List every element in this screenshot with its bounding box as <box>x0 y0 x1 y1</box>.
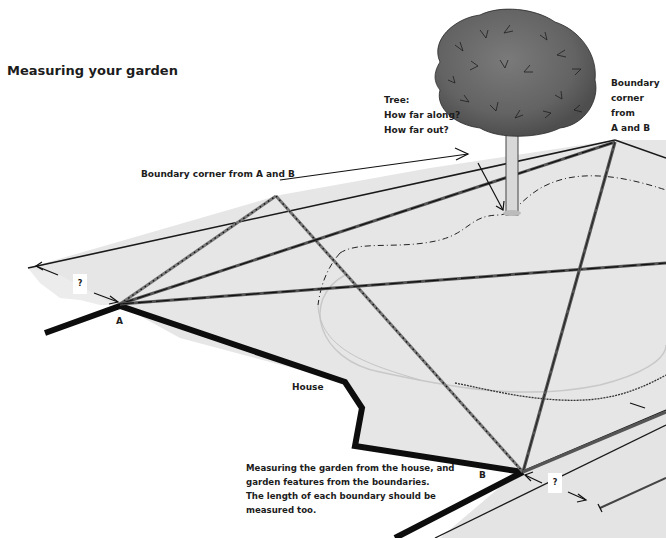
boundary-corner-right-label: Boundary corner from A and B <box>611 76 660 136</box>
diagram-illustration <box>0 0 666 538</box>
garden-measuring-diagram: Measuring your garden Tree: How far alon… <box>0 0 666 538</box>
point-b-label: B <box>479 470 486 480</box>
tree-label: Tree: How far along? How far out? <box>384 93 460 138</box>
page-title: Measuring your garden <box>7 63 178 78</box>
boundary-corner-left-label: Boundary corner from A and B <box>141 169 295 179</box>
unknown-distance-a: ? <box>73 274 87 294</box>
house-label: House <box>292 382 324 392</box>
diagram-caption: Measuring the garden from the house, and… <box>246 461 454 517</box>
point-a-label: A <box>116 316 123 326</box>
unknown-distance-b: ? <box>548 473 562 493</box>
